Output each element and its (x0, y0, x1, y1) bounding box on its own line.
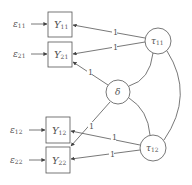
cov-tau11-delta (129, 53, 153, 86)
loading-label: 1 (113, 43, 118, 52)
latent-label-tau12: τ12 (146, 143, 159, 153)
observed-label-y22: Y22 (52, 155, 66, 166)
cov-delta-tau12 (129, 98, 150, 135)
loading-label: 1 (112, 133, 117, 142)
path-diagram: 1 1 1 1 1 1 ε11 ε21 ε12 ε22 Y11 Y21 Y12 … (0, 0, 192, 185)
error-label-11: ε11 (13, 19, 25, 29)
observed-label-y11: Y11 (54, 19, 68, 30)
loading-label: 1 (113, 28, 118, 37)
error-label-22: ε22 (10, 155, 23, 165)
latent-label-tau11: τ11 (151, 36, 164, 46)
loading-label: 1 (88, 68, 93, 77)
latent-label-delta: δ (115, 87, 120, 97)
observed-label-y12: Y12 (52, 125, 66, 136)
loading-label: 1 (110, 150, 115, 159)
error-label-12: ε12 (10, 125, 23, 135)
loading-label: 1 (89, 122, 94, 131)
cov-tau11-tau12 (164, 51, 180, 140)
observed-label-y21: Y21 (54, 49, 68, 60)
error-label-21: ε21 (13, 49, 25, 59)
